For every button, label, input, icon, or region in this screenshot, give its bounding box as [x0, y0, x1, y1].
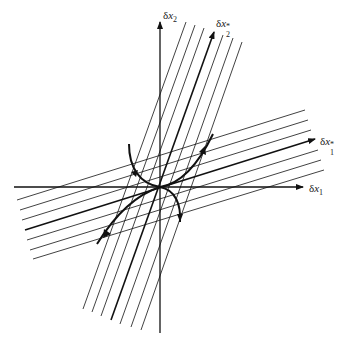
steep-line-family — [83, 22, 242, 330]
shallow-grid-line — [22, 130, 311, 220]
axis-label-dx1-star: δx*1 — [320, 136, 336, 147]
diagram-canvas — [0, 0, 348, 341]
phase-portrait-diagram: δx2 δx*2 δx*1 δx1 — [0, 0, 348, 341]
steep-grid-line — [92, 25, 195, 312]
steep-grid-line — [120, 35, 223, 324]
trajectory-curves — [97, 134, 213, 244]
axis-label-dx1: δx1 — [309, 183, 323, 197]
steep-grid-line — [83, 22, 186, 309]
shallow-grid-line — [20, 120, 308, 210]
axis-label-dx2-star: δx*2 — [216, 18, 232, 29]
arrowhead-icon — [177, 214, 183, 222]
trajectory-arrowheads — [103, 146, 206, 238]
axis-label-dx2: δx2 — [163, 10, 177, 24]
shallow-grid-line — [30, 160, 321, 250]
